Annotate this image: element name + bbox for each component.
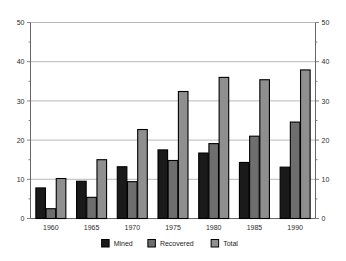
x-tick-label: 1960 <box>43 224 59 231</box>
bar <box>97 160 107 219</box>
bar <box>158 150 168 219</box>
bar <box>46 209 56 219</box>
bar <box>127 182 137 219</box>
legend-item: Recovered <box>148 240 194 248</box>
x-tick-label: 1965 <box>84 224 100 231</box>
bar <box>239 162 249 218</box>
bar <box>199 153 209 218</box>
legend-swatch <box>211 240 219 248</box>
y-tick-label-left: 50 <box>17 19 25 26</box>
y-tick-label-right: 0 <box>322 215 326 222</box>
y-tick-label-right: 50 <box>322 19 330 26</box>
bar <box>56 179 66 219</box>
legend-label: Recovered <box>160 240 194 247</box>
chart-legend: MinedRecoveredTotal <box>102 240 239 248</box>
y-tick-label-left: 10 <box>17 176 25 183</box>
y-tick-label-left: 40 <box>17 58 25 65</box>
y-tick-label-right: 30 <box>322 98 330 105</box>
y-tick-label-left: 30 <box>17 98 25 105</box>
legend-item: Total <box>211 240 238 248</box>
bar <box>260 80 270 219</box>
legend-swatch <box>102 240 110 248</box>
bar <box>301 70 311 219</box>
bar <box>250 136 260 218</box>
y-tick-label-right: 10 <box>322 176 330 183</box>
y-tick-label-right: 20 <box>322 137 330 144</box>
y-tick-label-left: 0 <box>21 215 25 222</box>
x-tick-label: 1975 <box>165 224 181 231</box>
x-tick-label: 1970 <box>124 224 140 231</box>
bar <box>77 181 87 218</box>
bar <box>280 167 290 218</box>
bar <box>219 77 229 218</box>
x-tick-label: 1985 <box>247 224 263 231</box>
x-tick-label: 1990 <box>287 224 303 231</box>
y-tick-label-left: 20 <box>17 137 25 144</box>
x-tick-label: 1980 <box>206 224 222 231</box>
legend-swatch <box>148 240 156 248</box>
bar <box>178 91 188 218</box>
legend-label: Mined <box>114 240 133 247</box>
bar <box>36 188 46 219</box>
bar <box>290 122 300 218</box>
chart-canvas: 01020304050 01020304050 1960196519701975… <box>0 0 346 261</box>
legend-label: Total <box>223 240 238 247</box>
legend-item: Mined <box>102 240 133 248</box>
bar-chart: 01020304050 01020304050 1960196519701975… <box>0 0 346 261</box>
bar <box>209 144 219 219</box>
bar <box>117 167 127 219</box>
y-tick-label-right: 40 <box>322 58 330 65</box>
bar <box>168 160 178 218</box>
bar <box>138 130 148 219</box>
bar <box>87 197 97 218</box>
